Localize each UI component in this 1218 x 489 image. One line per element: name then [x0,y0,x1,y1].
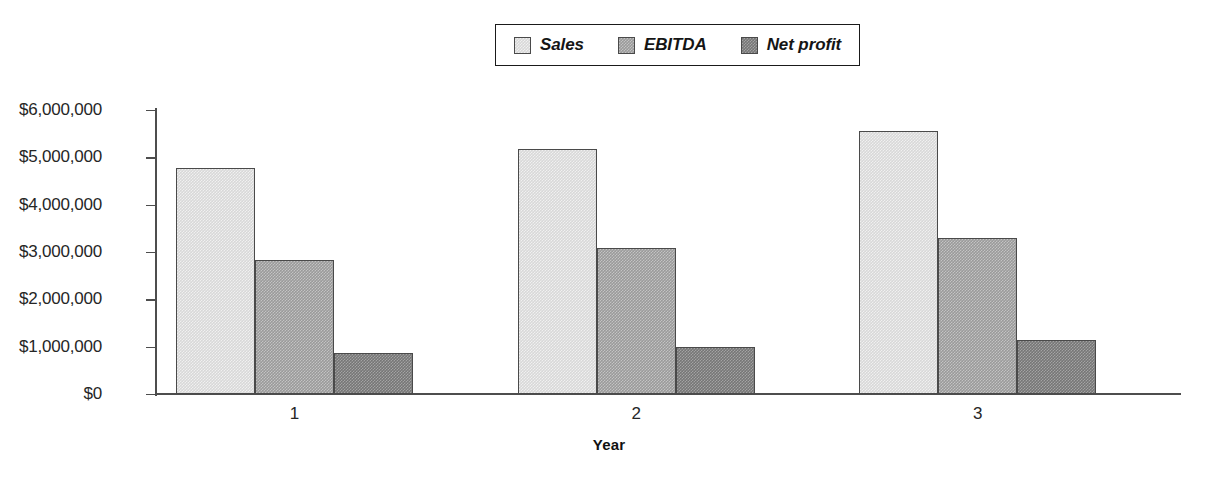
legend-item-sales[interactable]: Sales [514,35,584,55]
legend-label-sales: Sales [540,35,584,55]
y-axis-tick [146,299,155,300]
x-axis-title: Year [0,436,1218,453]
legend-label-net-profit: Net profit [767,35,842,55]
legend-item-net-profit[interactable]: Net profit [741,35,842,55]
y-axis-tick-label: $5,000,000 [19,147,102,167]
bar-ebitda-year-2[interactable] [597,248,676,394]
y-axis-tick [146,157,155,158]
chart-legend: Sales EBITDA Net profit [495,24,860,66]
bar-net-profit-year-3[interactable] [1017,340,1096,394]
legend-swatch-net-profit-icon [741,37,758,54]
y-axis-tick [146,205,155,206]
y-axis-tick [146,394,155,395]
y-axis-tick-label: $4,000,000 [19,195,102,215]
y-axis-tick [146,347,155,348]
plot-area: $6,000,000$5,000,000$4,000,000$3,000,000… [155,110,1180,394]
legend-swatch-sales-icon [514,37,531,54]
legend-label-ebitda: EBITDA [644,35,707,55]
y-axis-tick-label: $3,000,000 [19,242,102,262]
y-axis-tick-label: $6,000,000 [19,100,102,120]
bar-ebitda-year-1[interactable] [255,260,334,394]
x-axis-tick-label: 1 [290,404,299,424]
x-axis-tick-label: 2 [631,404,640,424]
x-axis-tick-label: 3 [973,404,982,424]
legend-swatch-ebitda-icon [618,37,635,54]
legend-item-ebitda[interactable]: EBITDA [618,35,707,55]
bar-ebitda-year-3[interactable] [938,238,1017,394]
bar-sales-year-2[interactable] [518,149,597,394]
y-axis-tick-label: $0 [83,384,102,404]
y-axis-tick [146,252,155,253]
y-axis-tick [146,110,155,111]
bar-chart: Sales EBITDA Net profit $6,000,000$5,000… [0,0,1218,489]
bar-net-profit-year-2[interactable] [676,347,755,394]
y-axis-tick-label: $1,000,000 [19,337,102,357]
y-axis-tick-label: $2,000,000 [19,289,102,309]
bar-sales-year-3[interactable] [859,131,938,394]
bar-net-profit-year-1[interactable] [334,353,413,394]
bar-sales-year-1[interactable] [176,168,255,394]
